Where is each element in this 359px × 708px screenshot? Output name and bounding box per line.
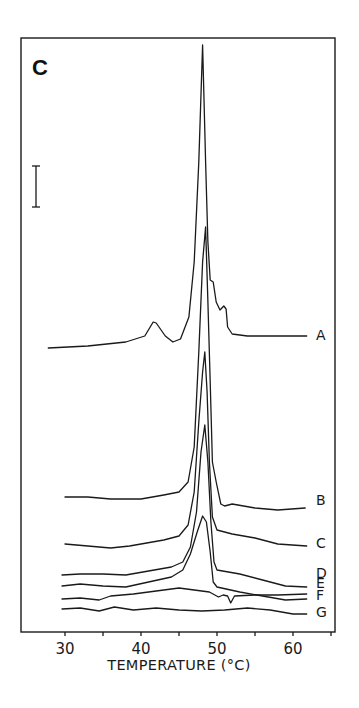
x-tick-label: 30 <box>55 640 74 658</box>
curve-label-c: C <box>316 535 326 551</box>
plot-frame <box>21 38 335 632</box>
dsc-thermogram-chart: C ABCDEFG 30405060 TEMPERATURE (°C) <box>0 0 359 708</box>
trace-a <box>48 45 306 348</box>
curve-label-a: A <box>316 327 326 343</box>
curve-label-f: F <box>316 587 324 603</box>
trace-group <box>48 45 306 614</box>
curve-label-group: ABCDEFG <box>316 327 327 620</box>
trace-c <box>65 352 307 548</box>
curve-label-g: G <box>316 604 327 620</box>
trace-g <box>62 607 307 614</box>
x-tick-label: 60 <box>283 640 302 658</box>
trace-f <box>62 588 307 603</box>
panel-label: C <box>32 55 48 80</box>
x-axis-ticks: 30405060 <box>55 632 331 658</box>
trace-d <box>62 425 307 587</box>
x-axis-label: TEMPERATURE (°C) <box>106 657 251 673</box>
scale-bar <box>32 166 40 207</box>
x-tick-label: 40 <box>131 640 150 658</box>
trace-b <box>65 227 305 510</box>
x-tick-label: 50 <box>207 640 226 658</box>
curve-label-b: B <box>316 492 326 508</box>
